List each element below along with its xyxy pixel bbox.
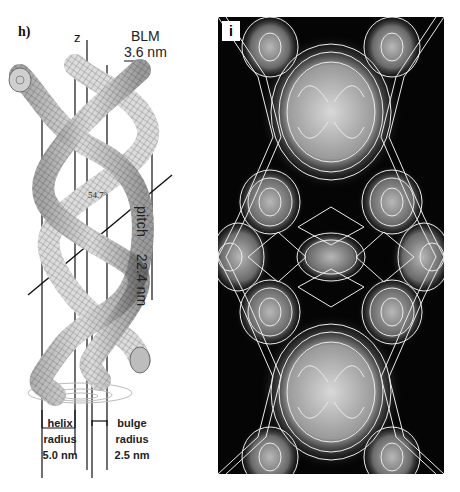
bulge-radius-line1: bulge: [110, 415, 154, 431]
scale-label: BLM 3.6 nm: [124, 28, 167, 60]
pitch-label: pitch: [134, 206, 150, 237]
bulge-radius-label: bulge radius 2.5 nm: [110, 415, 154, 463]
pitch-value: 22.4 nm: [134, 254, 150, 307]
bulge-radius-value: 2.5 nm: [110, 447, 154, 463]
helix-radius-line2: radius: [38, 431, 82, 447]
bulge-radius-line2: radius: [110, 431, 154, 447]
panel-label-i: i: [222, 21, 240, 41]
panel-i-density-map: i: [218, 17, 444, 474]
pitch-angle-label: 54.7°: [88, 190, 107, 200]
helix-radius-line1: helix: [38, 415, 82, 431]
helix-radius-value: 5.0 nm: [38, 447, 82, 463]
scale-value: 3.6 nm: [124, 44, 167, 60]
pitch-annotation: pitch 22.4 nm: [134, 206, 150, 307]
z-axis-label: z: [74, 30, 81, 45]
helix-diagram: [0, 0, 215, 492]
scale-name: BLM: [124, 28, 167, 44]
panel-label-h: h): [18, 24, 30, 40]
contour-map: [218, 17, 444, 474]
panel-h-helix-model: h) z BLM 3.6 nm 54.7° pitch 22.4 nm heli…: [0, 0, 215, 492]
helix-tubes: [9, 65, 150, 395]
helix-radius-label: helix radius 5.0 nm: [38, 415, 82, 463]
